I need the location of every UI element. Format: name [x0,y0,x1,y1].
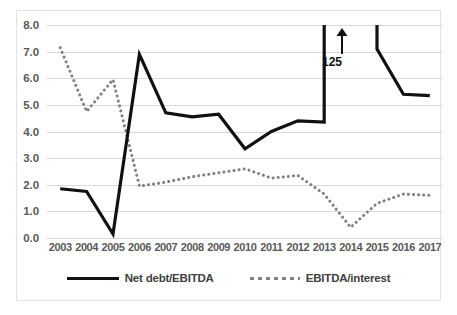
x-axis-tick-label: 2010 [232,241,258,261]
y-axis-tick-label: 5.0 [23,99,39,111]
x-axis-tick-label: 2003 [47,241,73,261]
x-axis-tick-label: 2008 [179,241,205,261]
y-axis-tick-label: 8.0 [23,19,39,31]
x-axis-tick-label: 2011 [258,241,284,261]
y-axis-tick-label: 6.0 [23,72,39,84]
gridline [47,238,443,239]
legend-label-ebitda-interest: EBITDA/interest [306,272,391,284]
solid-line-swatch-icon [67,277,119,280]
chart-legend: Net debt/EBITDA EBITDA/interest [16,272,441,284]
x-axis-tick-label: 2013 [311,241,337,261]
annotation-125-label: 125 [322,55,342,69]
x-axis-tick-label: 2006 [126,241,152,261]
y-axis-tick-label: 2.0 [23,179,39,191]
series-line-net-debt-ebitda-segment-1 [60,15,324,234]
annotation-arrow-up-icon [335,28,349,54]
chart-root: 8.07.06.05.04.03.02.01.00.0 125 20032004… [0,0,457,315]
series-line-ebitda-interest [60,48,430,228]
x-axis-tick-label: 2012 [285,241,311,261]
y-axis-tick-label: 4.0 [23,126,39,138]
legend-item-net-debt-ebitda[interactable]: Net debt/EBITDA [67,272,214,284]
x-axis-tick-label: 2015 [364,241,390,261]
legend-item-ebitda-interest[interactable]: EBITDA/interest [248,272,391,284]
legend-label-net-debt-ebitda: Net debt/EBITDA [125,272,214,284]
y-axis-tick-label: 0.0 [23,232,39,244]
y-axis-tick-label: 3.0 [23,152,39,164]
x-axis-tick-label: 2005 [100,241,126,261]
x-axis-labels: 2003200420052006200720082009201020112012… [47,241,443,261]
data-series-layer [47,25,443,238]
x-axis-tick-label: 2016 [390,241,416,261]
x-axis-tick-label: 2009 [205,241,231,261]
series-line-net-debt-ebitda-segment-2 [377,15,430,96]
x-axis-tick-label: 2004 [73,241,99,261]
dotted-line-swatch-icon [248,277,300,280]
y-axis-tick-label: 7.0 [23,46,39,58]
x-axis-tick-label: 2007 [153,241,179,261]
x-axis-tick-label: 2017 [417,241,443,261]
y-axis-tick-label: 1.0 [23,205,39,217]
x-axis-tick-label: 2014 [337,241,363,261]
